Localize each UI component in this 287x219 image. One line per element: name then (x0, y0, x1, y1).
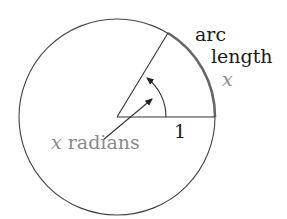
radius-label: 1 (174, 122, 186, 141)
arc-variable-label: x (222, 70, 233, 89)
diagram: arc length x 1 x radians (0, 0, 287, 219)
radius-angled (117, 33, 168, 117)
arc-label-line1: arc (195, 25, 226, 44)
angle-variable: x (51, 131, 62, 153)
highlighted-arc (168, 33, 215, 117)
circle-diagram-svg (0, 0, 287, 219)
angle-arc-arrow (147, 78, 166, 117)
arc-label-line2: length (211, 47, 273, 66)
angle-label: x radians (51, 133, 140, 152)
angle-unit: radians (68, 131, 140, 153)
